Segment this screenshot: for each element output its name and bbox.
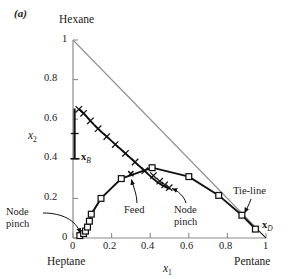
figure-panel-a: (a) Hexane Heptane Pentane 1 0.8 0.6 0.4…	[0, 0, 295, 279]
x-tick-label-0-2: 0.2	[103, 241, 116, 252]
panel-tag: (a)	[14, 8, 27, 19]
y-axis-label-subscript: 2	[33, 135, 37, 144]
x-tick-label-0-6: 0.6	[180, 241, 193, 252]
distillate-composition-label: xD	[262, 220, 273, 233]
tie-line-leader	[245, 199, 252, 213]
node-pinch-right-line2: pinch	[174, 216, 197, 228]
vertex-label-pentane: Pentane	[234, 256, 270, 268]
bottoms-composition-label: xB	[81, 152, 91, 165]
feed-annotation: Feed	[124, 205, 144, 216]
distillate-subscript: D	[267, 224, 272, 233]
x-tick-label-0: 0	[70, 241, 75, 252]
x-tick-label-0-8: 0.8	[219, 241, 232, 252]
y-tick-label-0: 0	[62, 232, 67, 243]
feed-leader	[132, 180, 138, 204]
x-axis-ticks	[73, 233, 266, 238]
node-pinch-left-line1: Node	[6, 206, 29, 218]
node-pinch-left-line2: pinch	[6, 218, 29, 230]
y-tick-label-0-6: 0.6	[44, 113, 57, 124]
y-tick-label-1: 1	[62, 34, 67, 45]
y-tick-label-0-4: 0.4	[44, 152, 57, 163]
ternary-diagram-plot	[0, 0, 295, 279]
vertex-label-heptane: Heptane	[47, 256, 85, 268]
y-tick-label-0-2: 0.2	[44, 192, 57, 203]
series-rectifying-profile-squares	[80, 168, 256, 236]
node-pinch-right-annotation: Node pinch	[174, 204, 197, 228]
node-pinch-right-line1: Node	[174, 204, 197, 216]
vertex-label-hexane: Hexane	[59, 14, 94, 26]
x-axis-label-subscript: 1	[168, 268, 172, 277]
bottoms-subscript: B	[86, 156, 91, 165]
series-hypotenuse	[73, 40, 266, 238]
x-axis-label: x1	[163, 263, 172, 277]
x-tick-label-1: 1	[263, 241, 268, 252]
x-tick-label-0-4: 0.4	[141, 241, 154, 252]
tie-line-annotation: Tie-line	[233, 186, 266, 197]
node-pinch-left-annotation: Node pinch	[6, 206, 29, 230]
node-pinch-right-leader	[172, 189, 186, 204]
y-tick-label-0-8: 0.8	[44, 73, 57, 84]
y-axis-label: x2	[28, 130, 37, 144]
